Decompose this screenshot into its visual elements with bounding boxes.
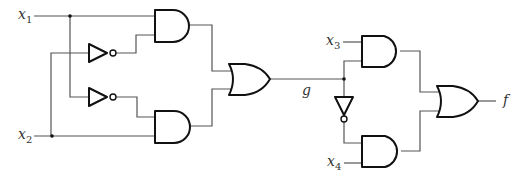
- inverter-3-bubble: [341, 116, 347, 122]
- label-f: f: [503, 93, 508, 107]
- label-x2: x2: [18, 127, 32, 145]
- wire-inv3-out: [344, 122, 362, 143]
- label-x1: x1: [18, 7, 32, 25]
- circuit-svg: [0, 0, 526, 178]
- junction-x1: [68, 14, 72, 18]
- junction-x2: [50, 134, 54, 138]
- inverter-3: [335, 97, 353, 115]
- and-gate-4: [362, 136, 397, 167]
- wire-inv1-out: [116, 35, 155, 53]
- wire-and2-out: [190, 89, 232, 126]
- or-gate-2: [437, 86, 478, 117]
- wire-inv2-out: [116, 97, 155, 117]
- label-x4: x4: [327, 154, 341, 172]
- and-gate-1: [155, 10, 189, 42]
- and-gate-2: [155, 111, 190, 143]
- inverter-1: [89, 44, 107, 62]
- and-gate-3: [362, 36, 396, 67]
- wire-g-and3: [344, 61, 362, 79]
- wire-x1-branch: [70, 16, 89, 97]
- wire-and3-out: [400, 51, 440, 92]
- wire-and1-out: [189, 25, 232, 71]
- or-gate-1: [229, 64, 270, 95]
- junction-g: [342, 77, 346, 81]
- inverter-2: [89, 88, 107, 106]
- inverter-2-bubble: [110, 94, 116, 100]
- logic-circuit-diagram: x1 x2 x3 x4 g f: [0, 0, 526, 178]
- inverter-1-bubble: [110, 50, 116, 56]
- label-x3: x3: [326, 33, 340, 51]
- label-g: g: [302, 83, 311, 97]
- wire-and4-out: [401, 111, 440, 151]
